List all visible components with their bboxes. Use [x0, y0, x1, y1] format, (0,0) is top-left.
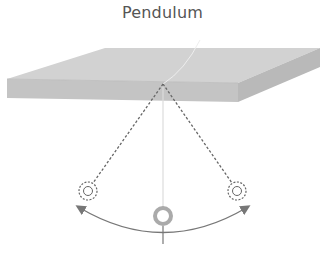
pendulum-diagram: [0, 0, 325, 256]
bob-center: [155, 208, 171, 224]
bob-right: [228, 182, 246, 200]
bob-left: [79, 182, 97, 200]
